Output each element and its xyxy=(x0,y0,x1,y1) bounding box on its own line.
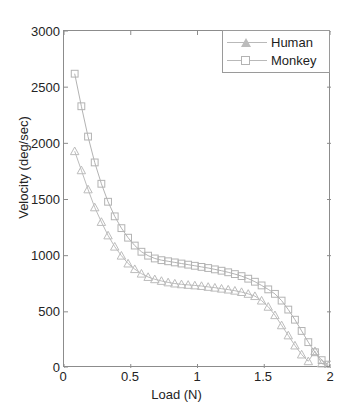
square-marker-icon xyxy=(241,56,250,65)
series-line-human xyxy=(75,151,329,366)
data-series-group xyxy=(70,70,331,368)
legend: Human Monkey xyxy=(222,30,330,73)
chart-screenshot: ШЕПЕЛЕВА ЕЕТ ЕЕЕЕ ЕТ ТТ ТТРЕТ ТЕТЕ ТЕТ Е… xyxy=(0,0,353,417)
series-line-monkey xyxy=(75,74,329,365)
x-axis-label: Load (N) xyxy=(0,387,353,402)
legend-label-monkey: Monkey xyxy=(271,52,317,70)
legend-label-human: Human xyxy=(271,34,313,52)
triangle-marker-icon xyxy=(70,147,78,155)
axis-ticks xyxy=(64,31,331,368)
legend-entry-human: Human xyxy=(223,34,329,52)
x-tick-1: 1 xyxy=(177,369,217,384)
x-tick-2: 2 xyxy=(310,369,350,384)
legend-entry-monkey: Monkey xyxy=(223,52,329,70)
legend-symbol-monkey xyxy=(223,52,271,70)
legend-symbol-human xyxy=(223,34,271,52)
x-tick-1.5: 1.5 xyxy=(243,369,283,384)
x-tick-0: 0 xyxy=(43,369,83,384)
plot-area xyxy=(63,30,330,367)
triangle-marker-icon xyxy=(241,38,251,47)
x-tick-0.5: 0.5 xyxy=(110,369,150,384)
series-canvas xyxy=(64,31,331,368)
